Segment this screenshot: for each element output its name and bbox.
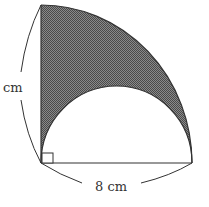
geometry-diagram: cm 8 cm <box>0 0 209 207</box>
left-dimension-arc-top <box>21 5 41 72</box>
bottom-dimension-arc-right <box>141 163 192 183</box>
bottom-dimension-label: 8 cm <box>95 179 127 194</box>
shaded-region <box>41 5 192 163</box>
left-dimension-label: cm <box>3 80 23 95</box>
bottom-dimension-arc-left <box>41 163 82 183</box>
left-dimension-arc-bottom <box>21 100 41 163</box>
right-angle-marker <box>42 153 53 163</box>
